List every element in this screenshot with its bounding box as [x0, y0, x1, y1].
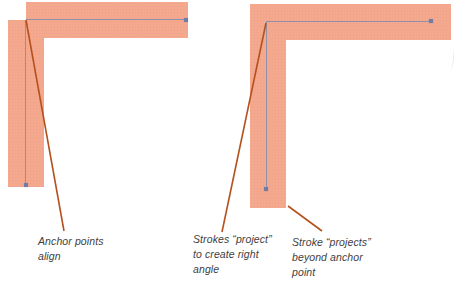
left-horizontal-stroke — [26, 2, 188, 38]
caption-stroke-projects-beyond: Stroke “projects” beyond anchor point — [292, 235, 371, 280]
page-edge-shadow — [447, 36, 454, 70]
caption-line: point — [292, 265, 371, 280]
left-vertical-stroke — [8, 20, 44, 187]
right-vertical-end-anchor-point — [264, 187, 268, 191]
caption-line: align — [38, 249, 104, 264]
left-horizontal-path-line — [26, 19, 186, 20]
right-vertical-path-line — [266, 21, 267, 189]
caption-line: angle — [193, 262, 272, 277]
caption-strokes-project: Strokes “project” to create right angle — [193, 232, 272, 277]
left-vertical-path-line — [25, 20, 26, 185]
right-horizontal-path-line — [267, 21, 431, 22]
caption-anchor-points-align: Anchor points align — [38, 234, 104, 264]
figure-canvas: Anchor points align Strokes “project” to… — [0, 0, 454, 288]
caption-line: Anchor points — [38, 234, 104, 249]
callout-line-stroke-projects-beyond — [288, 206, 322, 231]
caption-line: Stroke “projects” — [292, 235, 371, 250]
caption-line: to create right — [193, 247, 272, 262]
caption-line: beyond anchor — [292, 250, 371, 265]
caption-line: Strokes “project” — [193, 232, 272, 247]
right-horizontal-end-anchor-point — [429, 19, 433, 23]
left-vertical-end-anchor-point — [24, 183, 28, 187]
right-horizontal-stroke — [250, 4, 451, 40]
left-horizontal-end-anchor-point — [184, 18, 188, 22]
